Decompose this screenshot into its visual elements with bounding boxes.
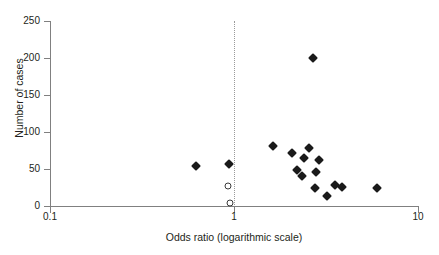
y-tick bbox=[44, 169, 51, 170]
x-tick-label: 1 bbox=[214, 212, 254, 222]
y-tick-label: 250 bbox=[0, 16, 40, 26]
data-point-open bbox=[226, 200, 233, 207]
reference-line-or-1 bbox=[234, 21, 235, 207]
y-tick-label: 50 bbox=[0, 164, 40, 174]
data-point-filled bbox=[372, 183, 382, 193]
data-point-filled bbox=[268, 141, 278, 151]
y-axis-line bbox=[50, 21, 51, 207]
scatter-chart: 050100150200250 0.1110 Number of cases O… bbox=[0, 0, 439, 255]
data-point-filled bbox=[224, 159, 234, 169]
data-point-filled bbox=[311, 167, 321, 177]
y-tick bbox=[44, 21, 51, 22]
data-point-filled bbox=[299, 153, 309, 163]
y-axis-title: Number of cases bbox=[13, 33, 25, 163]
data-point-open bbox=[225, 183, 232, 190]
data-point-filled bbox=[314, 155, 324, 165]
data-point-filled bbox=[287, 148, 297, 158]
y-tick bbox=[44, 58, 51, 59]
data-point-filled bbox=[191, 161, 201, 171]
x-tick-label: 10 bbox=[398, 212, 438, 222]
x-axis-title: Odds ratio (logarithmic scale) bbox=[50, 231, 418, 243]
data-point-filled bbox=[304, 143, 314, 153]
data-point-filled bbox=[308, 53, 318, 63]
y-tick bbox=[44, 132, 51, 133]
y-tick-label: 0 bbox=[0, 201, 40, 211]
data-point-filled bbox=[322, 191, 332, 201]
data-point-filled bbox=[310, 183, 320, 193]
data-point-filled bbox=[337, 182, 347, 192]
y-tick bbox=[44, 95, 51, 96]
x-tick-label: 0.1 bbox=[30, 212, 70, 222]
